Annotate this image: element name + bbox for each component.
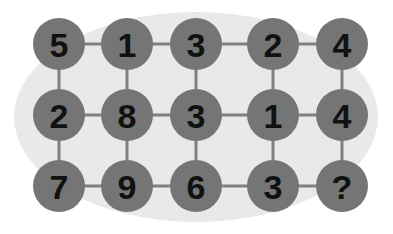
grid-node[interactable]: 3 xyxy=(247,160,299,212)
node-circle[interactable] xyxy=(247,89,299,141)
node-circle[interactable] xyxy=(316,89,368,141)
node-circle[interactable] xyxy=(33,18,85,70)
grid-node[interactable]: 4 xyxy=(316,89,368,141)
node-circle[interactable] xyxy=(170,160,222,212)
node-circle[interactable] xyxy=(247,18,299,70)
number-grid-diagram: 51324283147963? xyxy=(0,0,393,234)
grid-node[interactable]: 3 xyxy=(170,89,222,141)
grid-node[interactable]: 9 xyxy=(101,160,153,212)
grid-node-unknown[interactable]: ? xyxy=(316,160,368,212)
grid-node[interactable]: 3 xyxy=(170,18,222,70)
node-circle[interactable] xyxy=(316,18,368,70)
node-circle[interactable] xyxy=(101,18,153,70)
puzzle-canvas: 51324283147963? xyxy=(0,0,393,234)
grid-node[interactable]: 1 xyxy=(101,18,153,70)
node-circle[interactable] xyxy=(170,18,222,70)
node-circle[interactable] xyxy=(33,160,85,212)
node-circle[interactable] xyxy=(33,89,85,141)
grid-node[interactable]: 5 xyxy=(33,18,85,70)
grid-node[interactable]: 1 xyxy=(247,89,299,141)
node-circle[interactable] xyxy=(247,160,299,212)
grid-node[interactable]: 6 xyxy=(170,160,222,212)
node-circle[interactable] xyxy=(316,160,368,212)
node-circle[interactable] xyxy=(101,160,153,212)
grid-node[interactable]: 2 xyxy=(33,89,85,141)
node-layer: 51324283147963? xyxy=(33,18,368,212)
grid-node[interactable]: 8 xyxy=(101,89,153,141)
grid-node[interactable]: 4 xyxy=(316,18,368,70)
grid-node[interactable]: 7 xyxy=(33,160,85,212)
grid-node[interactable]: 2 xyxy=(247,18,299,70)
node-circle[interactable] xyxy=(101,89,153,141)
node-circle[interactable] xyxy=(170,89,222,141)
